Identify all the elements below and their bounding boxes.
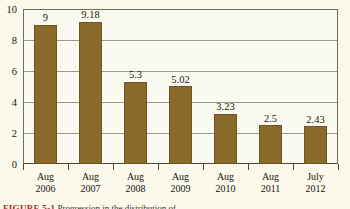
x-axis-tick-marks bbox=[23, 164, 338, 170]
x-tick-label: Aug2007 bbox=[68, 171, 113, 194]
x-tick-label-month: Aug bbox=[127, 171, 144, 182]
x-tick-label-year: 2006 bbox=[23, 183, 68, 195]
bars-layer: 99.185.35.023.232.52.43 bbox=[23, 9, 338, 164]
x-tick-label-month: July bbox=[307, 171, 324, 182]
bar-column: 9 bbox=[34, 13, 57, 164]
bar-value-label: 5.3 bbox=[129, 70, 142, 81]
x-tick-label-month: Aug bbox=[37, 171, 54, 182]
x-tick-mark bbox=[248, 164, 249, 170]
bar-value-label: 9 bbox=[43, 13, 48, 24]
y-tick-4: 4 bbox=[12, 97, 17, 108]
bar-group: 5.02 bbox=[158, 9, 203, 164]
bar-column: 5.02 bbox=[169, 75, 192, 164]
x-tick-label: Aug2006 bbox=[23, 171, 68, 194]
x-tick-label-year: 2007 bbox=[68, 183, 113, 195]
bar bbox=[214, 114, 237, 164]
x-tick-mark bbox=[338, 164, 339, 170]
x-tick-label-month: Aug bbox=[217, 171, 234, 182]
x-axis-tick-labels: Aug2006Aug2007Aug2008Aug2009Aug2010Aug20… bbox=[23, 171, 338, 199]
figure-caption: FIGURE 5-1 Progression in the distributi… bbox=[3, 203, 350, 209]
bar-value-label: 2.43 bbox=[306, 115, 324, 126]
bar-value-label: 3.23 bbox=[216, 102, 234, 113]
bar-column: 2.5 bbox=[259, 114, 282, 164]
x-tick-label-year: 2011 bbox=[248, 183, 293, 195]
x-tick-label: July2012 bbox=[293, 171, 338, 194]
bar-group: 3.23 bbox=[203, 9, 248, 164]
figure-number: FIGURE 5-1 bbox=[3, 203, 55, 209]
x-tick-label: Aug2008 bbox=[113, 171, 158, 194]
y-axis-tick-labels: 0246810 bbox=[0, 9, 20, 164]
bar-chart: 0246810 99.185.35.023.232.52.43 Aug2006A… bbox=[0, 0, 350, 209]
x-tick-mark bbox=[68, 164, 69, 170]
bar-group: 2.43 bbox=[293, 9, 338, 164]
y-tick-6: 6 bbox=[12, 66, 17, 77]
x-tick-mark bbox=[113, 164, 114, 170]
bar-value-label: 2.5 bbox=[264, 114, 277, 125]
y-tick-10: 10 bbox=[7, 4, 18, 15]
bar bbox=[169, 86, 192, 164]
bar-group: 2.5 bbox=[248, 9, 293, 164]
bar bbox=[304, 126, 327, 164]
bar-value-label: 9.18 bbox=[81, 10, 99, 21]
x-tick-label-month: Aug bbox=[172, 171, 189, 182]
x-tick-label: Aug2010 bbox=[203, 171, 248, 194]
y-tick-0: 0 bbox=[12, 159, 17, 170]
figure-caption-text: Progression in the distribution of ... bbox=[58, 203, 186, 209]
bar-value-label: 5.02 bbox=[171, 75, 189, 86]
bar bbox=[34, 25, 57, 165]
bar-group: 9.18 bbox=[68, 9, 113, 164]
x-tick-label-year: 2009 bbox=[158, 183, 203, 195]
x-tick-label: Aug2011 bbox=[248, 171, 293, 194]
x-tick-label-month: Aug bbox=[82, 171, 99, 182]
bar-column: 3.23 bbox=[214, 102, 237, 164]
y-tick-8: 8 bbox=[12, 35, 17, 46]
bar-column: 2.43 bbox=[304, 115, 327, 164]
x-tick-label: Aug2009 bbox=[158, 171, 203, 194]
x-tick-label-year: 2010 bbox=[203, 183, 248, 195]
bar-group: 5.3 bbox=[113, 9, 158, 164]
x-tick-label-year: 2008 bbox=[113, 183, 158, 195]
bar-column: 5.3 bbox=[124, 70, 147, 164]
bar-column: 9.18 bbox=[79, 10, 102, 164]
x-tick-mark bbox=[293, 164, 294, 170]
x-tick-label-year: 2012 bbox=[293, 183, 338, 195]
y-tick-2: 2 bbox=[12, 128, 17, 139]
bar bbox=[79, 22, 102, 164]
x-tick-mark bbox=[158, 164, 159, 170]
x-tick-mark bbox=[23, 164, 24, 170]
bar bbox=[259, 125, 282, 164]
x-tick-label-month: Aug bbox=[262, 171, 279, 182]
bar bbox=[124, 82, 147, 164]
x-tick-mark bbox=[203, 164, 204, 170]
bar-group: 9 bbox=[23, 9, 68, 164]
